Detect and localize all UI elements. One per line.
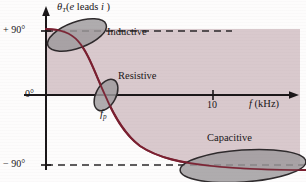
y-axis-arrowhead — [42, 6, 50, 16]
x-tick-label-10: 10 — [207, 100, 217, 110]
x-axis-title: f (kHz) — [249, 99, 279, 110]
y-axis-title-paren-close: ) — [104, 1, 110, 12]
y-axis-title-leads: leads — [74, 1, 101, 12]
plot-canvas — [0, 0, 306, 182]
resonance-label-sub: p — [103, 113, 107, 121]
y-axis-title: θT(e leads i ) — [57, 2, 110, 13]
y-tick-label-minus-90: − 90° — [3, 159, 25, 169]
annotation-resistive: Resistive — [118, 71, 157, 82]
annotation-inductive: Inductive — [107, 27, 147, 38]
y-tick-label-zero: 0° — [25, 89, 34, 99]
phase-angle-figure: θT(e leads i ) + 90° 0° − 90° 10 f (kHz)… — [0, 0, 306, 182]
annotation-capacitive: Capacitive — [207, 133, 252, 144]
y-tick-label-plus-90: + 90° — [3, 25, 25, 35]
x-axis-title-unit: (kHz) — [255, 98, 280, 109]
resonance-frequency-label: fp — [100, 108, 107, 121]
